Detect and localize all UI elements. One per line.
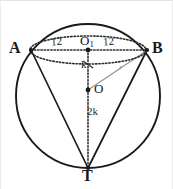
vertex-label-b: B — [152, 40, 163, 56]
measure-label-radius: r — [119, 63, 123, 72]
geometry-canvas — [1, 1, 173, 189]
point-a — [29, 48, 33, 52]
ellipse-center-subscript: 1 — [89, 39, 93, 49]
geometry-figure: A B T O1 O 12 12 k 2k r — [0, 0, 173, 189]
measure-label-upper-segment: k — [81, 59, 87, 70]
vertex-label-t: T — [82, 168, 93, 184]
point-b — [145, 48, 149, 52]
ellipse-center-letter: O — [80, 33, 89, 48]
measure-label-lower-segment: 2k — [87, 106, 98, 117]
point-o — [86, 88, 91, 93]
ellipse-center-label: O1 — [80, 34, 94, 49]
vertex-label-a: A — [9, 40, 21, 56]
measure-label-left-half-chord: 12 — [51, 36, 63, 48]
circle-center-label: O — [94, 82, 103, 95]
measure-label-right-half-chord: 12 — [103, 36, 115, 48]
